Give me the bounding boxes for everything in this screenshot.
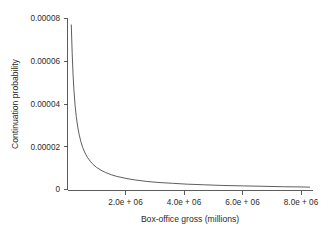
x-tick-label: 6.0e + 06 <box>225 198 260 207</box>
x-axis-title: Box-office gross (millions) <box>141 214 239 224</box>
y-axis-ticks <box>64 19 68 190</box>
x-tick-label: 4.0e + 06 <box>167 198 202 207</box>
x-tick-label: 8.0e + 06 <box>284 198 319 207</box>
y-axis-title: Continuation probability <box>10 58 20 149</box>
y-tick-label: 0.00006 <box>30 57 60 66</box>
data-series-continuation-probability <box>71 25 309 187</box>
y-tick-label: 0.00004 <box>30 100 60 109</box>
x-axis-tick-labels: 2.0e + 06 4.0e + 06 6.0e + 06 8.0e + 06 <box>108 198 318 207</box>
y-tick-label: 0.00008 <box>30 14 60 23</box>
y-tick-label: 0.00002 <box>30 143 60 152</box>
chart-plot-area: 0.00008 0.00006 0.00004 0.00002 0 2.0e +… <box>0 0 328 242</box>
chart-figure: 0.00008 0.00006 0.00004 0.00002 0 2.0e +… <box>0 0 328 242</box>
x-axis-ticks <box>126 191 302 195</box>
y-axis-tick-labels: 0.00008 0.00006 0.00004 0.00002 0 <box>30 14 60 194</box>
x-tick-label: 2.0e + 06 <box>108 198 143 207</box>
y-tick-label: 0 <box>55 185 60 194</box>
